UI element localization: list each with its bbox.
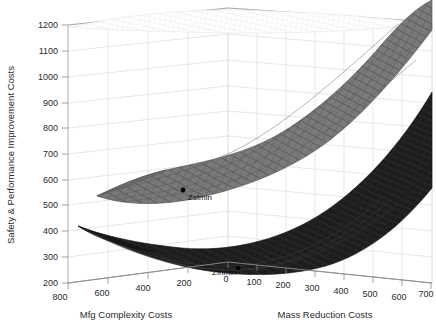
z-tick-1000: 1000	[38, 72, 58, 82]
surface-plot-figure: 1200 1100 1000 900 800 700 600 500 400 3…	[0, 0, 436, 326]
mass-tick-400: 400	[333, 286, 348, 296]
z-tick-1100: 1100	[39, 46, 58, 56]
mass-tick-600: 600	[391, 292, 406, 302]
mfg-tick-600: 600	[94, 288, 109, 298]
mfg-axis-title: Mfg Complexity Costs	[80, 309, 173, 320]
mfg-tick-800: 800	[52, 292, 67, 302]
z-tick-900: 900	[43, 98, 58, 108]
plot-canvas: 1200 1100 1000 900 800 700 600 500 400 3…	[0, 0, 436, 326]
mass-tick-500: 500	[362, 289, 377, 299]
z-axis: 1200 1100 1000 900 800 700 600 500 400 3…	[38, 20, 68, 288]
z-axis-title: Safety & Performance Improvement Costs	[5, 66, 16, 244]
mass-axis-title: Mass Reduction Costs	[277, 309, 372, 320]
mass-tick-200: 200	[275, 280, 290, 290]
z-tick-800: 800	[43, 123, 58, 133]
zstmin-label: Zstmin	[188, 193, 212, 202]
z-tick-600: 600	[43, 175, 58, 185]
zfnmin-label: Zfnmin	[212, 268, 236, 277]
z-tick-1200: 1200	[38, 20, 58, 30]
mass-tick-100: 100	[246, 277, 261, 287]
z-tick-700: 700	[43, 149, 58, 159]
zfnmin-marker	[236, 266, 240, 270]
mass-tick-300: 300	[304, 283, 319, 293]
mfg-tick-200: 200	[176, 278, 191, 288]
mass-tick-700: 700	[418, 289, 433, 299]
zstmin-marker	[181, 188, 186, 193]
z-tick-300: 300	[43, 252, 58, 262]
z-tick-500: 500	[43, 200, 58, 210]
z-tick-400: 400	[43, 226, 58, 236]
mfg-tick-400: 400	[135, 283, 150, 293]
z-tick-200: 200	[43, 278, 58, 288]
